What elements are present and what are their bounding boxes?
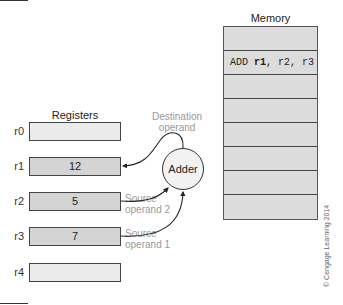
copyright-notice: © Cengage Learning 2014 — [323, 205, 330, 287]
source-operand-2-arrow — [121, 188, 168, 201]
data-flow-arrows — [0, 0, 343, 305]
destination-arrow — [123, 133, 183, 166]
